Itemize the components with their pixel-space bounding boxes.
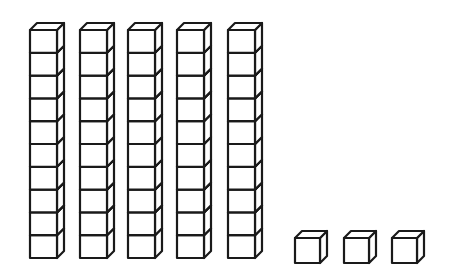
cube-front-face — [30, 144, 57, 167]
cube-front-face — [295, 238, 320, 263]
cube-front-face — [80, 144, 107, 167]
cube-front-face — [128, 30, 155, 53]
cube-front-face — [177, 235, 204, 258]
cube-front-face — [128, 121, 155, 144]
cube-front-face — [30, 235, 57, 258]
cube-front-face — [128, 212, 155, 235]
cube-front-face — [177, 121, 204, 144]
ten-rod-3 — [128, 23, 162, 258]
cube-front-face — [228, 98, 255, 121]
cube-front-face — [80, 190, 107, 213]
rod-cube — [128, 23, 162, 53]
unit-cube-1 — [295, 231, 327, 263]
cube-front-face — [128, 98, 155, 121]
cube-front-face — [228, 76, 255, 99]
cube-front-face — [128, 53, 155, 76]
cube-front-face — [177, 144, 204, 167]
cube-front-face — [128, 167, 155, 190]
cube-front-face — [80, 212, 107, 235]
cube-front-face — [228, 144, 255, 167]
base-ten-blocks-diagram — [0, 0, 453, 275]
cube-front-face — [80, 167, 107, 190]
cube-front-face — [177, 190, 204, 213]
cube-front-face — [177, 30, 204, 53]
cube-front-face — [128, 144, 155, 167]
cube-front-face — [30, 98, 57, 121]
cube-front-face — [80, 121, 107, 144]
rod-cube — [80, 23, 114, 53]
cube-front-face — [228, 167, 255, 190]
cube-front-face — [392, 238, 417, 263]
cube-front-face — [128, 235, 155, 258]
rod-cube — [228, 23, 262, 53]
cube-front-face — [30, 167, 57, 190]
rod-cube — [177, 23, 211, 53]
cube-front-face — [80, 98, 107, 121]
cube-front-face — [30, 121, 57, 144]
unit-cube-3 — [392, 231, 424, 263]
cube-front-face — [228, 190, 255, 213]
cube-front-face — [30, 212, 57, 235]
cube-front-face — [128, 190, 155, 213]
cube-front-face — [80, 30, 107, 53]
cube-front-face — [80, 53, 107, 76]
ten-rod-5 — [228, 23, 262, 258]
ten-rod-4 — [177, 23, 211, 258]
cube-front-face — [228, 121, 255, 144]
cube-front-face — [30, 190, 57, 213]
cube-front-face — [344, 238, 369, 263]
cube-front-face — [228, 53, 255, 76]
cube-front-face — [30, 30, 57, 53]
cube-front-face — [177, 76, 204, 99]
ten-rod-2 — [80, 23, 114, 258]
cube-front-face — [177, 98, 204, 121]
cube-front-face — [30, 53, 57, 76]
cube-front-face — [228, 235, 255, 258]
cube-front-face — [128, 76, 155, 99]
unit-cube-2 — [344, 231, 376, 263]
cube-front-face — [80, 235, 107, 258]
cube-front-face — [177, 53, 204, 76]
cube-front-face — [177, 212, 204, 235]
cube-front-face — [80, 76, 107, 99]
ten-rod-1 — [30, 23, 64, 258]
rod-cube — [30, 23, 64, 53]
cube-front-face — [228, 212, 255, 235]
cube-front-face — [228, 30, 255, 53]
cube-front-face — [30, 76, 57, 99]
cube-front-face — [177, 167, 204, 190]
